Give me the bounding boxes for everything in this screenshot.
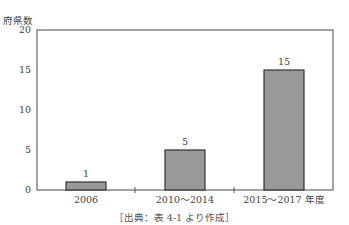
x-label-2015-2017: 2015～2017 年度 [243, 194, 324, 205]
y-tick-15: 15 [19, 64, 31, 75]
x-label-2006: 2006 [74, 194, 98, 205]
x-label-2010-2014: 2010～2014 [156, 194, 214, 205]
bar-2015-2017 [264, 70, 304, 190]
x-tick-labels: 2006 2010～2014 2015～2017 年度 [74, 194, 325, 205]
bar-2010-2014 [165, 150, 205, 190]
data-label-2006: 1 [83, 168, 89, 179]
y-tick-5: 5 [25, 144, 31, 155]
y-tick-10: 10 [19, 104, 31, 115]
bar-2006 [66, 182, 106, 190]
y-tick-20: 20 [19, 24, 31, 35]
source-caption: ［出典：表 4-1 より作成］ [0, 210, 349, 224]
data-label-2010-2014: 5 [182, 136, 188, 147]
bars [66, 70, 304, 190]
bar-chart: 府県数 0 5 10 15 20 1 5 15 2006 2010～2014 2… [0, 0, 349, 225]
y-tick-0: 0 [25, 184, 31, 195]
data-label-2015-2017: 15 [278, 56, 290, 67]
y-tick-labels: 0 5 10 15 20 [19, 24, 31, 195]
